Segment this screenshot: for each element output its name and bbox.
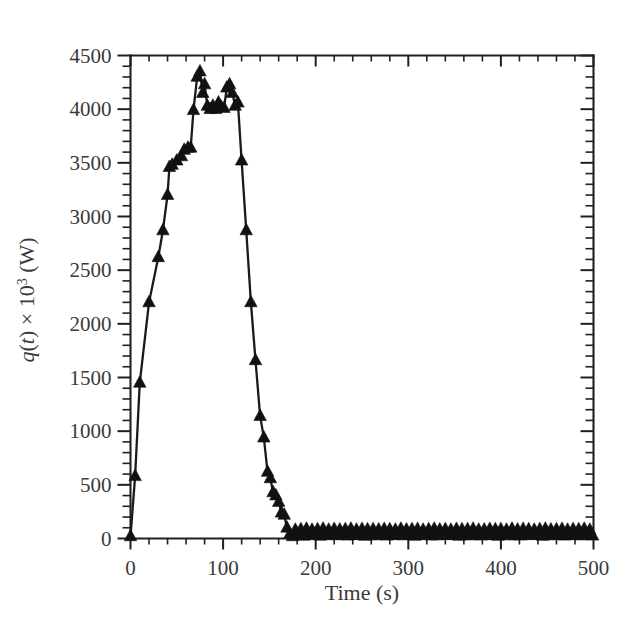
y-tick-label: 2000	[70, 312, 112, 336]
data-point-marker	[161, 188, 174, 200]
data-point-marker	[245, 295, 258, 307]
x-tick-label: 200	[300, 556, 332, 580]
y-tick-label: 3500	[70, 151, 112, 175]
data-point-marker	[143, 295, 156, 307]
data-point-marker	[254, 409, 267, 421]
y-tick-label: 3000	[70, 205, 112, 229]
chart-figure: 0100200300400500 05001000150020002500300…	[0, 0, 635, 618]
y-tick-label: 4000	[70, 97, 112, 121]
data-point-marker	[258, 430, 271, 442]
axes-group	[131, 56, 594, 539]
data-point-marker	[194, 64, 207, 76]
x-tick-label: 0	[125, 556, 136, 580]
data-point-marker	[157, 223, 170, 235]
data-point-marker	[249, 353, 262, 365]
chart-plot-area: 0100200300400500 05001000150020002500300…	[0, 0, 635, 618]
data-point-marker	[152, 250, 165, 262]
y-tick-label: 0	[101, 527, 112, 551]
y-tick-label: 500	[80, 473, 112, 497]
ticks-group	[118, 56, 594, 550]
data-point-marker	[134, 376, 147, 388]
data-series-group	[124, 64, 599, 540]
x-tick-labels: 0100200300400500	[125, 556, 609, 580]
x-tick-label: 300	[393, 556, 425, 580]
y-axis-title: q(t) × 103 (W)	[14, 237, 39, 362]
data-point-marker	[240, 223, 253, 235]
data-line	[131, 72, 593, 537]
data-point-marker	[124, 529, 137, 541]
x-tick-label: 500	[578, 556, 610, 580]
data-point-marker	[235, 154, 248, 166]
y-tick-label: 1500	[70, 366, 112, 390]
x-tick-label: 400	[485, 556, 517, 580]
y-tick-labels: 050010001500200025003000350040004500	[70, 44, 112, 551]
y-tick-label: 4500	[70, 44, 112, 68]
data-point-marker	[187, 103, 200, 115]
y-tick-label: 2500	[70, 258, 112, 282]
x-tick-label: 100	[207, 556, 239, 580]
y-tick-label: 1000	[70, 419, 112, 443]
x-axis-title: Time (s)	[325, 580, 399, 605]
